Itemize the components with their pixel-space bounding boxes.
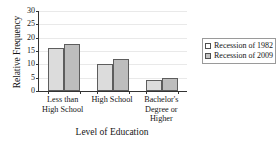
gridline (39, 11, 187, 12)
x-axis-tick-mark (146, 91, 147, 94)
y-axis-tick-label: 10 (27, 60, 35, 68)
legend: Recession of 1982 Recession of 2009 (202, 38, 276, 64)
x-axis-tick-mark (178, 91, 179, 94)
bar-chart-figure: Relative Frequency 051015202530 Less tha… (0, 0, 279, 141)
gridline (39, 38, 187, 39)
legend-item-label: Recession of 1982 (214, 42, 273, 50)
x-axis-tick-mark (129, 91, 130, 94)
y-axis-tick-label: 25 (27, 20, 35, 28)
y-axis-tick-mark (36, 91, 39, 92)
y-axis-tick-label: 5 (31, 74, 35, 82)
x-axis-tick-mark (80, 91, 81, 94)
x-axis-category-label: Bachelor's Degree or Higher (137, 95, 186, 124)
gridline (39, 24, 187, 25)
y-axis-tick-label: 15 (27, 47, 35, 55)
y-axis-tick-mark (36, 51, 39, 52)
x-axis-category-label: High School (87, 95, 136, 105)
y-axis-tick-label: 30 (27, 7, 35, 15)
y-axis-tick-label: 0 (31, 87, 35, 95)
bar (162, 78, 178, 91)
bar (146, 80, 162, 91)
y-axis-tick-mark (36, 64, 39, 65)
x-axis-tick-mark (48, 91, 49, 94)
x-axis-title: Level of Education (26, 127, 198, 137)
y-axis-tick-mark (36, 78, 39, 79)
plot-area: 051015202530 (38, 11, 187, 92)
y-axis-tick-mark (36, 11, 39, 12)
bar (48, 48, 64, 91)
bar (113, 59, 129, 91)
legend-swatch-icon (205, 43, 211, 49)
bar (97, 64, 113, 91)
cropped-title-remnant (55, 0, 175, 2)
y-axis-title: Relative Frequency (12, 4, 22, 100)
y-axis-tick-mark (36, 24, 39, 25)
legend-item-label: Recession of 2009 (214, 52, 273, 60)
legend-item: Recession of 2009 (205, 51, 273, 61)
x-axis-category-label: Less than High School (38, 95, 87, 114)
bar (64, 44, 80, 91)
x-axis-tick-mark (97, 91, 98, 94)
legend-item: Recession of 1982 (205, 41, 273, 51)
legend-swatch-icon (205, 53, 211, 59)
y-axis-tick-label: 20 (27, 34, 35, 42)
y-axis-tick-mark (36, 38, 39, 39)
